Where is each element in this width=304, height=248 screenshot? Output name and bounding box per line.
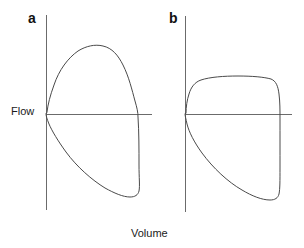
panel-b-loop-curve (185, 76, 280, 200)
panel-a-label: a (28, 11, 36, 25)
y-axis-label-flow: Flow (11, 106, 34, 117)
x-axis-label-volume: Volume (131, 228, 168, 239)
panel-b-label: b (169, 11, 178, 25)
panel-a-loop-curve (46, 45, 139, 197)
figure-canvas (0, 0, 304, 248)
flow-volume-loop-figure: a b Flow Volume (0, 0, 304, 248)
